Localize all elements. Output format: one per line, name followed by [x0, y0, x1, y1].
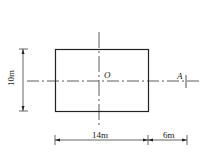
center-label: O: [104, 71, 111, 80]
rectangle: [56, 50, 149, 112]
width-label: 14m: [92, 131, 108, 140]
offset-label: 6m: [163, 131, 175, 140]
height-label: 10m: [7, 70, 16, 86]
point-a-label: A: [177, 72, 183, 81]
